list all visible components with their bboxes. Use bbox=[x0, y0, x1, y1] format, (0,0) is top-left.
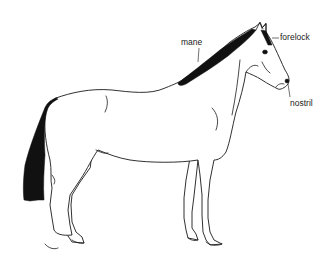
eye bbox=[263, 50, 268, 54]
horse-body bbox=[45, 23, 289, 245]
label-forelock: forelock bbox=[280, 33, 310, 42]
label-mane: mane bbox=[181, 38, 202, 47]
label-nostril: nostril bbox=[290, 99, 313, 108]
mane-leader-line bbox=[198, 48, 199, 62]
nostril-leader-line bbox=[288, 84, 290, 97]
hoof bbox=[45, 244, 58, 249]
far-foreleg bbox=[184, 158, 198, 240]
horse-diagram: mane forelock nostril bbox=[0, 0, 336, 275]
nostril bbox=[285, 79, 289, 83]
